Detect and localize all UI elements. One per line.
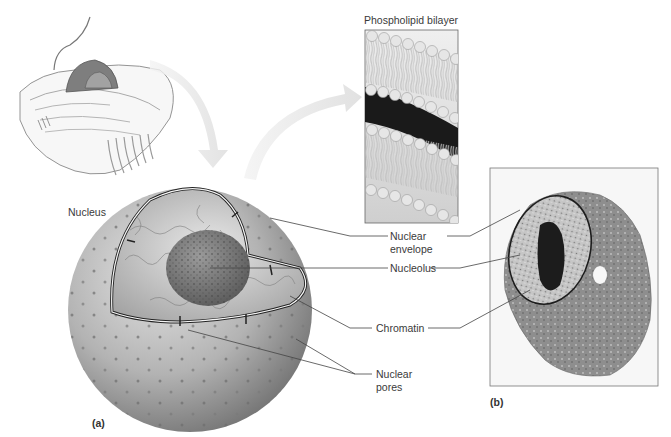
bilayer-title: Phospholipid bilayer xyxy=(364,14,458,27)
label-nucleolus: Nucleolus xyxy=(390,262,436,275)
bilayer-inset xyxy=(365,30,462,227)
label-nuclear-envelope: Nuclear envelope xyxy=(390,230,433,256)
panel-label-a: (a) xyxy=(92,417,105,429)
cell-sketch xyxy=(20,17,173,175)
label-chromatin: Chromatin xyxy=(376,322,424,335)
zoom-arrows xyxy=(150,60,362,180)
nucleus-sphere xyxy=(68,188,312,432)
panel-label-b: (b) xyxy=(490,396,503,408)
label-nuclear-pores: Nuclear pores xyxy=(376,368,412,394)
nucleus-title: Nucleus xyxy=(68,206,106,219)
micrograph xyxy=(490,168,658,386)
